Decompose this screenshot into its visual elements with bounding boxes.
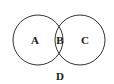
region-label-c: C (81, 34, 89, 46)
region-label-b: B (56, 34, 64, 46)
venn-diagram: A B C D (0, 0, 114, 84)
region-label-a: A (31, 34, 39, 46)
region-label-d: D (56, 70, 64, 82)
